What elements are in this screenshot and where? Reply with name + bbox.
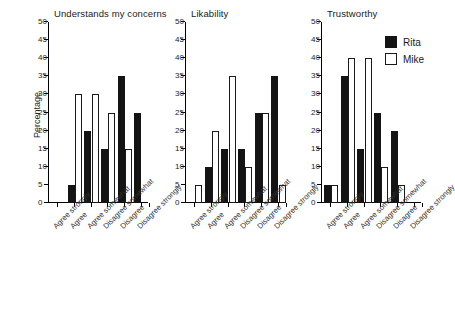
x-axis-tick xyxy=(194,203,195,207)
bar-group xyxy=(116,22,133,203)
y-axis-tick xyxy=(181,184,185,185)
panel-title: Trustworthy xyxy=(327,8,377,19)
x-axis-tick xyxy=(228,203,229,207)
bar-mike xyxy=(229,76,236,203)
bar-rita xyxy=(101,149,108,203)
y-axis-tick xyxy=(44,202,48,203)
bar-group xyxy=(236,22,253,203)
x-axis-tick xyxy=(364,203,365,207)
bar-rita xyxy=(374,113,381,204)
bar-rita xyxy=(205,167,212,203)
y-axis-tick xyxy=(317,202,321,203)
legend-label-rita: Rita xyxy=(403,37,421,48)
y-axis-tick-label: 5 xyxy=(175,181,178,189)
bar-mike xyxy=(348,58,355,203)
y-axis-tick-label: 35 xyxy=(38,72,41,80)
legend-swatch-rita xyxy=(385,36,397,48)
bar-group xyxy=(253,22,270,203)
y-axis-tick-label: 5 xyxy=(311,181,314,189)
x-axis-tick xyxy=(422,203,423,207)
bar-mike xyxy=(195,185,202,203)
y-axis-tick-label: 50 xyxy=(38,18,41,26)
bar-rita xyxy=(238,149,245,203)
bar-group xyxy=(186,22,203,203)
panel-title: Likability xyxy=(191,8,228,19)
y-axis-tick-label: 0 xyxy=(38,199,41,207)
y-axis-tick-label: 35 xyxy=(175,72,178,80)
y-axis-tick-label: 15 xyxy=(311,145,314,153)
x-axis-tick xyxy=(91,203,92,207)
x-axis-tick xyxy=(149,203,150,207)
y-axis-tick-label: 15 xyxy=(175,145,178,153)
y-axis-tick-label: 45 xyxy=(311,36,314,44)
bar-group xyxy=(355,22,372,203)
y-axis-tick-label: 35 xyxy=(311,72,314,80)
bar-mike xyxy=(365,58,372,203)
bar-mike xyxy=(108,113,115,204)
bar-group xyxy=(203,22,220,203)
x-axis-tick xyxy=(286,203,287,207)
legend-item-mike: Mike xyxy=(385,53,424,65)
y-axis-tick-label: 10 xyxy=(38,163,41,171)
y-axis-tick xyxy=(44,184,48,185)
legend-swatch-mike xyxy=(385,53,397,65)
y-axis-tick-label: 10 xyxy=(175,163,178,171)
y-axis-tick-label: 0 xyxy=(311,199,314,207)
y-axis-tick xyxy=(317,184,321,185)
bar-mike xyxy=(212,131,219,203)
bar-mike xyxy=(92,94,99,203)
x-axis-tick xyxy=(330,203,331,207)
bar-group xyxy=(132,22,149,203)
bar-group xyxy=(339,22,356,203)
y-axis-tick-label: 30 xyxy=(311,90,314,98)
bar-group xyxy=(322,22,339,203)
y-axis-tick-label: 25 xyxy=(311,109,314,117)
bar-rita xyxy=(324,185,331,203)
y-axis-tick-label: 40 xyxy=(38,54,41,62)
plot-area xyxy=(49,22,149,203)
y-axis-tick-label: 50 xyxy=(311,18,314,26)
y-axis-tick-label: 30 xyxy=(175,90,178,98)
bar-group xyxy=(99,22,116,203)
bar-mike xyxy=(75,94,82,203)
y-axis-tick-label: 25 xyxy=(175,109,178,117)
y-axis-tick-label: 45 xyxy=(38,36,41,44)
y-axis-tick-label: 20 xyxy=(175,127,178,135)
y-axis-label: Percentage xyxy=(32,92,42,138)
y-axis-tick-label: 5 xyxy=(38,181,41,189)
bar-group xyxy=(82,22,99,203)
bar-mike xyxy=(331,185,338,203)
y-axis-tick-label: 10 xyxy=(311,163,314,171)
bar-group xyxy=(269,22,286,203)
bar-rita xyxy=(118,76,125,203)
plot-area xyxy=(186,22,286,203)
chart-legend: Rita Mike xyxy=(385,36,424,70)
y-axis-tick-label: 0 xyxy=(175,199,178,207)
y-axis-tick-label: 40 xyxy=(311,54,314,62)
bar-group xyxy=(219,22,236,203)
y-axis-tick-label: 45 xyxy=(175,36,178,44)
y-axis-tick-label: 40 xyxy=(175,54,178,62)
y-axis-tick xyxy=(181,202,185,203)
legend-label-mike: Mike xyxy=(403,54,424,65)
x-axis-tick xyxy=(57,203,58,207)
panel-title: Understands my concerns xyxy=(54,8,167,19)
y-axis-tick-label: 15 xyxy=(38,145,41,153)
bar-group xyxy=(49,22,66,203)
legend-item-rita: Rita xyxy=(385,36,424,48)
y-axis-tick-label: 20 xyxy=(311,127,314,135)
bar-rita xyxy=(341,76,348,203)
y-axis-tick-label: 50 xyxy=(175,18,178,26)
bar-group xyxy=(66,22,83,203)
